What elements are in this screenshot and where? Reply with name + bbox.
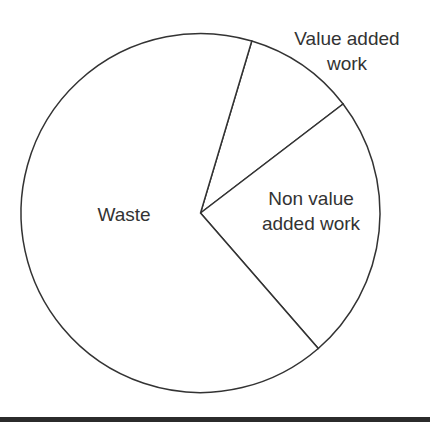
bottom-border-bar xyxy=(0,417,430,422)
value-added-label-line2: work xyxy=(326,53,368,74)
non-value-added-label-line2: added work xyxy=(262,213,361,234)
waste-label: Waste xyxy=(97,204,150,225)
non-value-added-label-line1: Non value xyxy=(268,188,354,209)
value-added-label-line1: Value added xyxy=(294,28,399,49)
pie-chart: Value added work Non value added work Wa… xyxy=(0,0,430,422)
pie-chart-svg: Value added work Non value added work Wa… xyxy=(0,0,430,422)
